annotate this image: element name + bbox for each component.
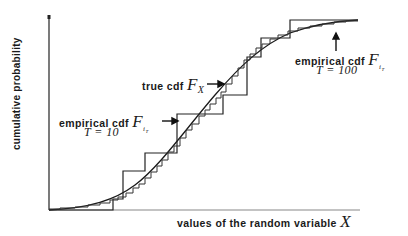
empirical-t100-subsub: T [381,67,384,72]
x-axis-label: values of the random variable X [177,212,351,232]
arrow-empirical-t10 [162,118,178,124]
empirical-t10-symbol: F [132,112,143,131]
true-cdf-label: true cdf FX [142,75,204,95]
x-axis-label-text: values of the random variable [177,217,337,229]
true-cdf-symbol: F [187,75,198,94]
arrow-empirical-t100 [333,33,339,51]
x-axis-symbol: X [340,212,351,231]
y-axis-label: cumulative probability [11,37,22,150]
y-axis-arrowhead [48,15,51,19]
empirical-t10-t-line: T = 10 [84,125,119,140]
empirical-t100-symbol: F [368,50,379,69]
empirical-t10-subsub: T [145,129,148,134]
true-cdf-subscript: X [198,84,205,95]
cdf-figure: cumulative probability values of the ran… [0,0,408,236]
empirical-t100-t-line: T = 100 [316,63,357,78]
arrow-true-cdf [207,81,224,87]
true-cdf-text: true cdf [142,80,184,92]
